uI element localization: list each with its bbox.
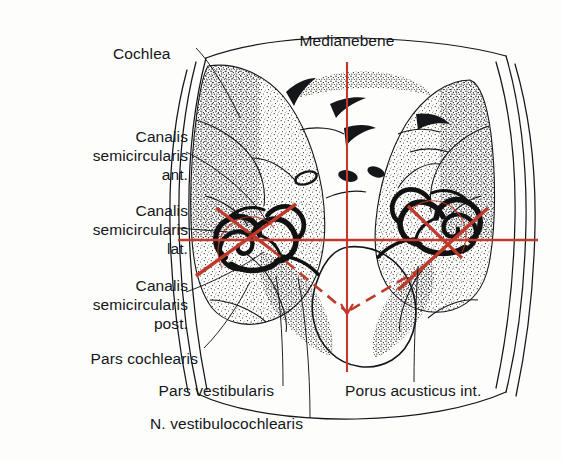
label-canalis-ant-line1: Canalis — [0, 128, 188, 147]
label-canalis-lat-line1: Canalis — [0, 202, 188, 221]
label-canalis-lat-line2: semicircularis — [0, 221, 188, 240]
label-pars-cochlearis: Pars cochlearis — [0, 350, 198, 369]
label-canalis-ant-line2: semicircularis — [0, 147, 188, 166]
label-canalis-lat-line3: lat. — [0, 240, 188, 259]
label-porus-acusticus-int: Porus acusticus int. — [345, 382, 481, 401]
label-medianebene: Medianebene — [277, 32, 417, 51]
label-canalis-semicircularis-lat: Canalis semicircularis lat. — [0, 202, 188, 259]
label-canalis-semicircularis-post: Canalis semicircularis post. — [0, 277, 188, 334]
label-canalis-ant-line3: ant. — [0, 166, 188, 185]
label-canalis-post-line2: semicircularis — [0, 296, 188, 315]
label-canalis-post-line1: Canalis — [0, 277, 188, 296]
label-canalis-semicircularis-ant: Canalis semicircularis ant. — [0, 128, 188, 185]
label-canalis-post-line3: post. — [0, 315, 188, 334]
label-pars-vestibularis: Pars vestibularis — [0, 382, 274, 401]
label-cochlea: Cochlea — [113, 45, 171, 64]
anatomical-figure: Cochlea Canalis semicircularis ant. Cana… — [0, 0, 562, 460]
label-n-vestibulocochlearis: N. vestibulocochlearis — [0, 415, 303, 434]
